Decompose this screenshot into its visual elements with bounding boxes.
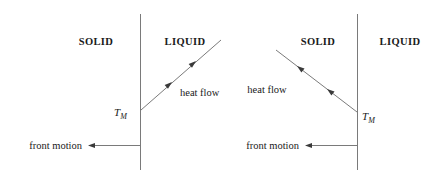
- solidification-diagram: SOLID LIQUID heat flow TM front motion: [0, 0, 441, 179]
- left-panel: SOLID LIQUID heat flow TM front motion: [29, 14, 221, 170]
- interface-temp-label-right: TM: [362, 110, 376, 125]
- liquid-label-left: LIQUID: [165, 36, 206, 47]
- front-motion-label-left: front motion: [29, 140, 83, 151]
- front-motion-label-right: front motion: [246, 140, 300, 151]
- interface-temp-label-left: TM: [114, 106, 128, 121]
- solid-label-right: SOLID: [301, 36, 336, 47]
- front-motion-arrowhead-right: [305, 143, 312, 148]
- figure-canvas: SOLID LIQUID heat flow TM front motion: [0, 0, 441, 179]
- tm-subscript-right: M: [367, 116, 376, 125]
- heat-flow-label-left: heat flow: [180, 87, 220, 98]
- heat-flow-line-right: [276, 50, 357, 112]
- liquid-label-right: LIQUID: [380, 36, 421, 47]
- right-panel: SOLID LIQUID heat flow TM front motion: [246, 14, 420, 170]
- heat-flow-line-left: [141, 40, 221, 110]
- heat-flow-label-right: heat flow: [247, 84, 287, 95]
- solid-label-left: SOLID: [79, 36, 114, 47]
- tm-subscript-left: M: [119, 112, 128, 121]
- front-motion-arrowhead-left: [88, 143, 95, 148]
